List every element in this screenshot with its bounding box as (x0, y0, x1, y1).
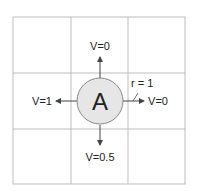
agent-label: A (92, 88, 108, 115)
value-left: V=1 (32, 95, 52, 107)
value-down: V=0.5 (85, 151, 114, 163)
reward-label: r = 1 (131, 77, 153, 89)
value-up: V=0 (90, 40, 110, 52)
grid-world-diagram: A V=0 V=1 V=0 V=0.5 r = 1 (0, 0, 197, 191)
value-right: V=0 (148, 95, 168, 107)
reward-pointer (133, 93, 138, 101)
